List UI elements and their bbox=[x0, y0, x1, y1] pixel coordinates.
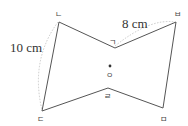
label-vertex-n: ㄴ bbox=[55, 10, 62, 19]
label-vertex-r: ㄹ bbox=[104, 92, 111, 101]
label-center-o: ㅇ bbox=[106, 71, 113, 80]
label-vertex-m: ㅁ bbox=[160, 115, 167, 124]
label-vertex-d: ㄷ bbox=[37, 115, 44, 124]
label-vertex-g: ㄱ bbox=[109, 38, 116, 47]
center-point bbox=[109, 65, 112, 68]
hexagon-diagram: ㄴ ㄱ ㅂ ㅁ ㄹ ㄷ ㅇ 10 cm 8 cm bbox=[0, 0, 188, 126]
label-vertex-b: ㅂ bbox=[174, 10, 181, 19]
measure-10cm: 10 cm bbox=[10, 40, 42, 55]
measure-8cm: 8 cm bbox=[122, 16, 148, 31]
measure-arc-10cm bbox=[38, 22, 58, 110]
